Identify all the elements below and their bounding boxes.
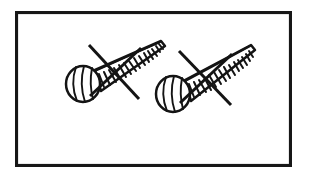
screw-right-head [156,76,190,112]
screw-left-head [66,66,100,102]
illustration-border [17,13,291,166]
illustration-canvas: Two wood screws crossed out [0,0,311,182]
screws-crossed-out-illustration [0,0,311,182]
